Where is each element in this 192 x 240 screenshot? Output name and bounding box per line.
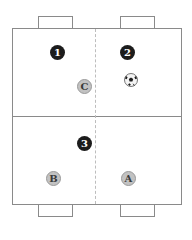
goal-bottom-left	[38, 204, 73, 217]
field-bottom-line	[12, 204, 182, 205]
player-3-marker: 3	[77, 136, 92, 151]
field-top-line	[12, 28, 182, 29]
goal-bottom-right	[120, 204, 155, 217]
center-divider-dashed	[95, 29, 96, 204]
player-2-marker: 2	[120, 45, 135, 60]
player-1-marker: 1	[50, 45, 65, 60]
player-b-marker: B	[46, 171, 61, 186]
player-c-marker: C	[77, 79, 92, 94]
player-a-marker: A	[121, 171, 136, 186]
soccer-ball-icon	[124, 72, 138, 86]
halfway-line	[12, 116, 182, 117]
